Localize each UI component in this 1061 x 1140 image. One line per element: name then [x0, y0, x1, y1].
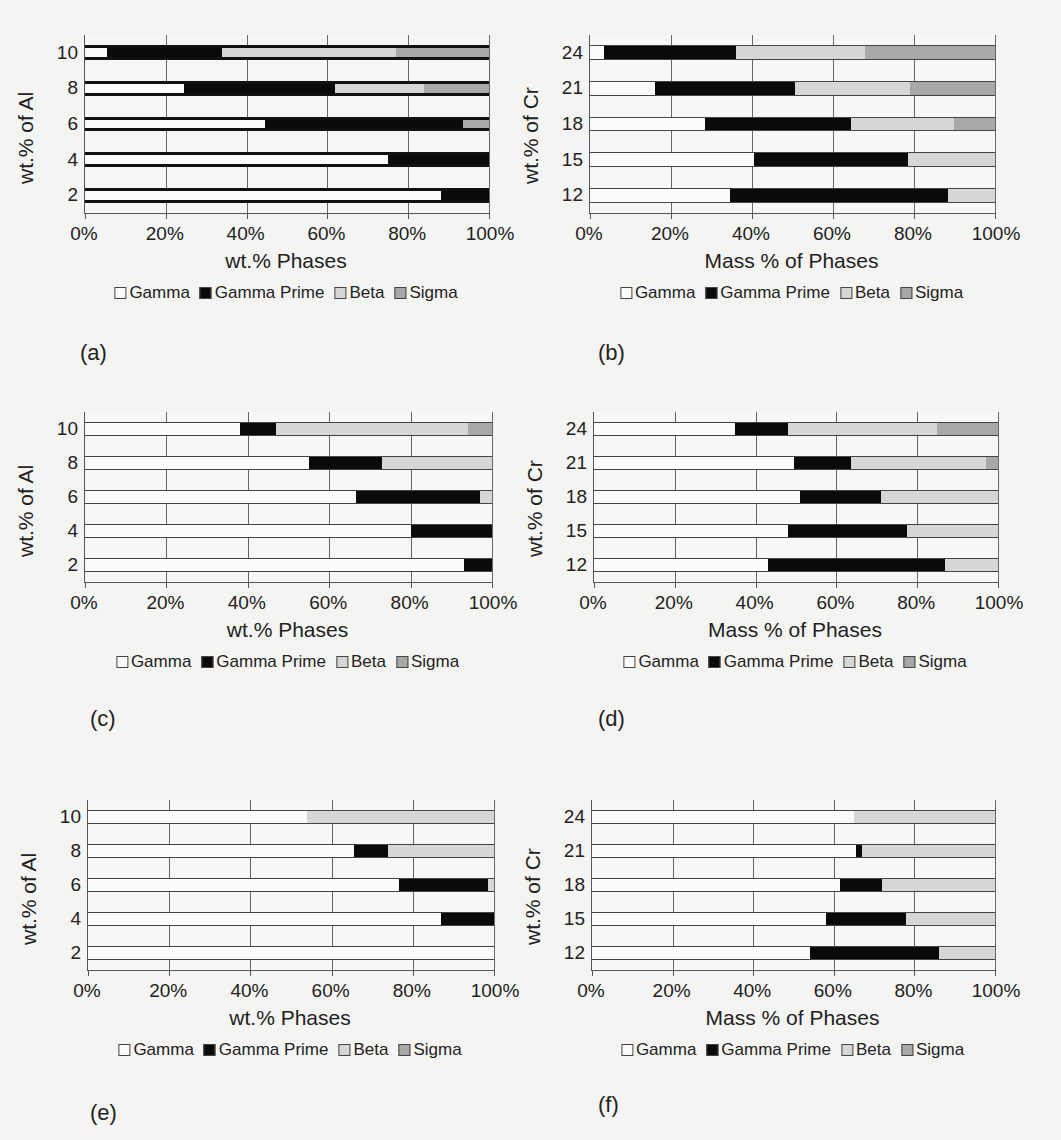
legend-item-gp: Gamma Prime	[204, 1040, 329, 1060]
x-tick	[834, 970, 835, 976]
legend-swatch-sigma	[396, 656, 408, 668]
x-tick	[833, 213, 834, 219]
x-tick-label: 20%	[146, 592, 184, 614]
stacked-bar	[594, 490, 998, 504]
x-tick-label: 40%	[733, 980, 771, 1002]
legend: GammaGamma PrimeBetaSigma	[118, 1040, 461, 1060]
legend-label: Gamma	[133, 1040, 193, 1060]
legend-swatch-beta	[840, 287, 852, 299]
legend-label: Sigma	[411, 652, 459, 672]
legend-swatch-gamma	[620, 287, 632, 299]
x-tick-label: 100%	[471, 980, 520, 1002]
stacked-bar	[592, 844, 995, 858]
bar-segment-sigma	[954, 117, 995, 132]
legend-item-beta: Beta	[338, 1040, 388, 1060]
x-tick-label: 60%	[307, 223, 345, 245]
legend-swatch-beta	[336, 656, 348, 668]
y-tick-label: 2	[42, 184, 78, 206]
x-tick-label: 60%	[309, 592, 347, 614]
legend-item-sigma: Sigma	[901, 1040, 964, 1060]
stacked-bar	[590, 81, 995, 96]
legend-label: Gamma	[635, 283, 695, 303]
stacked-bar	[594, 524, 998, 538]
bar-segment-gp	[399, 878, 488, 892]
x-tick	[998, 582, 999, 588]
legend-item-gp: Gamma Prime	[200, 283, 325, 303]
legend-label: Sigma	[918, 652, 966, 672]
plot-area	[589, 35, 995, 214]
bar-segment-gp	[730, 188, 949, 203]
x-tick-label: 40%	[230, 980, 268, 1002]
x-tick	[250, 970, 251, 976]
bar-segment-beta	[882, 878, 995, 892]
legend-item-gamma: Gamma	[118, 1040, 193, 1060]
y-tick-label: 21	[547, 77, 583, 99]
bar-segment-gp	[441, 912, 494, 926]
y-axis-title: wt.% of Al	[14, 465, 38, 557]
bar-segment-gp	[705, 117, 851, 132]
x-tick	[836, 582, 837, 588]
y-tick-label: 15	[547, 149, 583, 171]
x-tick-label: 40%	[227, 223, 265, 245]
bar-segment-gamma	[88, 946, 494, 960]
x-tick-label: 0%	[579, 592, 606, 614]
legend-item-gamma: Gamma	[114, 283, 189, 303]
bar-segment-gp	[800, 490, 881, 504]
x-tick	[592, 970, 593, 976]
legend-item-sigma: Sigma	[903, 652, 966, 672]
x-tick	[671, 213, 672, 219]
y-tick-label: 15	[551, 520, 587, 542]
y-axis-title: wt.% of Cr	[519, 87, 543, 184]
legend-label: Gamma	[129, 283, 189, 303]
x-tick-label: 100%	[469, 592, 518, 614]
plot-area	[591, 800, 995, 971]
legend-label: Gamma	[638, 652, 698, 672]
bar-segment-beta	[222, 45, 396, 60]
x-tick-label: 80%	[894, 980, 932, 1002]
legend-swatch-gp	[200, 287, 212, 299]
legend-label: Sigma	[409, 283, 457, 303]
bar-segment-gamma	[85, 490, 356, 504]
stacked-bar	[592, 810, 995, 824]
legend-swatch-gp	[705, 287, 717, 299]
bar-segment-beta	[881, 490, 998, 504]
x-tick	[673, 970, 674, 976]
bar-segment-gamma	[590, 152, 754, 167]
y-tick-label: 15	[549, 908, 585, 930]
legend-swatch-gamma	[621, 1044, 633, 1056]
gridline	[995, 35, 996, 213]
x-tick	[166, 213, 167, 219]
legend-item-gamma: Gamma	[621, 1040, 696, 1060]
bar-segment-sigma	[910, 81, 995, 96]
x-tick-label: 0%	[577, 980, 604, 1002]
x-tick	[914, 213, 915, 219]
stacked-bar	[85, 558, 492, 572]
x-tick	[329, 582, 330, 588]
bar-segment-gp	[810, 946, 939, 960]
stacked-bar	[592, 946, 995, 960]
bar-segment-sigma	[463, 117, 489, 132]
legend-swatch-gamma	[116, 656, 128, 668]
x-tick-label: 60%	[813, 223, 851, 245]
y-tick-label: 2	[45, 942, 81, 964]
legend-swatch-sigma	[900, 287, 912, 299]
bar-segment-gamma	[88, 844, 354, 858]
legend: GammaGamma PrimeBetaSigma	[114, 283, 457, 303]
legend-label: Beta	[858, 652, 893, 672]
legend-swatch-sigma	[398, 1044, 410, 1056]
x-axis-title: wt.% Phases	[225, 249, 346, 273]
y-tick-label: 24	[549, 806, 585, 828]
legend-item-beta: Beta	[840, 283, 890, 303]
legend-swatch-gp	[709, 656, 721, 668]
legend-label: Beta	[349, 283, 384, 303]
legend-label: Gamma Prime	[219, 1040, 329, 1060]
legend-item-gp: Gamma Prime	[706, 1040, 831, 1060]
y-tick-label: 8	[45, 840, 81, 862]
x-tick-label: 20%	[653, 980, 691, 1002]
legend-label: Gamma	[636, 1040, 696, 1060]
stacked-bar	[88, 844, 494, 858]
plot-area	[84, 35, 489, 214]
stacked-bar	[590, 152, 995, 167]
y-tick-label: 10	[45, 806, 81, 828]
bar-segment-beta	[948, 188, 995, 203]
